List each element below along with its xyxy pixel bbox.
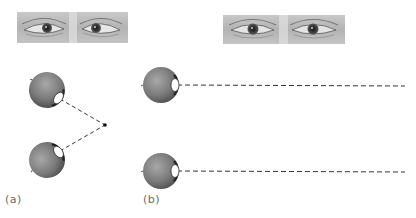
panel-b-top-eyeball	[141, 67, 179, 103]
panel-b-gaze-lines	[177, 85, 405, 172]
panel-b-bottom-eyeball	[141, 153, 179, 189]
panel-a-label: (a)	[5, 193, 22, 206]
panel-b-eye-photo	[223, 15, 345, 44]
panel-a-gaze-lines	[60, 99, 107, 151]
panel-b-label: (b)	[143, 193, 160, 206]
fixation-point	[103, 123, 107, 127]
panel-a-eye-photo	[17, 12, 128, 43]
vergence-diagram	[0, 0, 416, 218]
panel-a-bottom-eyeball	[20, 135, 72, 186]
panel-a-top-eyeball	[20, 64, 72, 115]
